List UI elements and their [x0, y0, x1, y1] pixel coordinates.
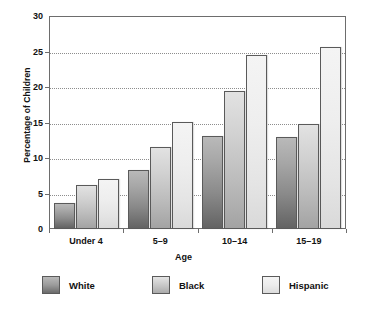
- bar: [54, 203, 75, 229]
- y-tick-label: 30: [3, 11, 43, 21]
- y-tick-label: 5: [3, 189, 43, 199]
- legend-label: Hispanic: [289, 280, 329, 291]
- y-tick-label: 15: [3, 118, 43, 128]
- bar: [202, 136, 223, 229]
- bar-group: [123, 16, 197, 229]
- y-tick-label: 20: [3, 82, 43, 92]
- bar: [276, 137, 297, 229]
- bar: [128, 170, 149, 229]
- y-tick-label: 10: [3, 153, 43, 163]
- legend-swatch: [152, 276, 170, 294]
- bar: [246, 55, 267, 229]
- bar-group: [49, 16, 123, 229]
- bar: [320, 47, 341, 229]
- bar: [224, 91, 245, 229]
- chart-legend: WhiteBlackHispanic: [0, 276, 367, 302]
- legend-label: Black: [179, 280, 204, 291]
- y-axis-title: Percentage of Children: [22, 35, 32, 195]
- x-tick-label: 15–19: [264, 236, 354, 246]
- bar: [98, 179, 119, 229]
- x-tick-mark: [272, 229, 273, 233]
- legend-item: White: [42, 276, 95, 294]
- legend-label: White: [69, 280, 95, 291]
- bar: [172, 122, 193, 229]
- x-tick-mark: [49, 229, 50, 233]
- y-tick-label: 0: [3, 224, 43, 234]
- legend-swatch: [42, 276, 60, 294]
- legend-item: Hispanic: [262, 276, 329, 294]
- x-tick-mark: [198, 229, 199, 233]
- bar: [76, 185, 97, 229]
- y-tick-label: 25: [3, 47, 43, 57]
- x-axis-title: Age: [0, 252, 367, 262]
- bar: [150, 147, 171, 229]
- legend-swatch: [262, 276, 280, 294]
- bars-layer: [49, 16, 346, 229]
- legend-item: Black: [152, 276, 204, 294]
- x-tick-mark: [346, 229, 347, 233]
- x-tick-mark: [123, 229, 124, 233]
- bar-group: [272, 16, 346, 229]
- bar-chart: Percentage of Children 302520151050 Unde…: [0, 0, 367, 310]
- bar: [298, 124, 319, 229]
- bar-group: [198, 16, 272, 229]
